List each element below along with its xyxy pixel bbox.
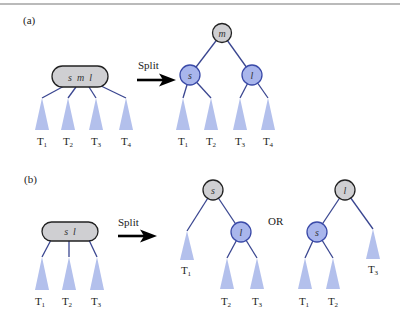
node-key: l — [251, 70, 254, 81]
subtree-triangle — [261, 98, 275, 130]
subtree-triangle — [35, 98, 49, 130]
subtree-label: T1 — [299, 295, 310, 309]
subtree-triangle — [298, 258, 312, 289]
subtree-triangle — [250, 258, 264, 289]
subtree-triangle — [233, 98, 247, 130]
split-label: Split — [138, 59, 159, 71]
subtree-triangle — [62, 257, 76, 290]
split-tree-a: m s l T1 T2 T3 T4 — [176, 24, 275, 150]
subtree-label: T3 — [91, 295, 102, 309]
three-node-before: s l T1 T2 T3 — [35, 222, 104, 309]
panel-a-label: (a) — [23, 14, 36, 27]
subtree-triangle — [119, 98, 133, 130]
subtree-triangle — [220, 258, 234, 289]
subtree-label: T2 — [62, 295, 73, 309]
subtree-label: T1 — [178, 135, 189, 149]
node-key: l — [240, 227, 243, 238]
three-node-keys: s l — [64, 226, 76, 237]
node-key: s — [188, 70, 192, 81]
subtree-triangle — [89, 98, 103, 130]
subtree-label: T2 — [221, 295, 232, 309]
subtree-triangle — [180, 231, 194, 260]
split-tree-option-1: s l T1 T2 T3 — [180, 180, 264, 309]
panel-b-label: (b) — [24, 173, 37, 186]
subtree-triangle — [366, 229, 380, 259]
subtree-triangle — [61, 98, 75, 130]
four-node-before: s m l T1 T2 T3 T4 — [35, 66, 133, 149]
subtree-label: T4 — [121, 135, 132, 149]
subtree-triangle — [35, 257, 49, 290]
node-key: s — [211, 185, 215, 196]
split-arrow-b: Split — [118, 216, 157, 243]
split-tree-option-2: l s T3 T1 T2 — [298, 180, 380, 309]
or-label: OR — [268, 215, 284, 227]
split-label: Split — [118, 216, 139, 228]
subtree-label: T1 — [181, 264, 192, 278]
node-key: l — [344, 185, 347, 196]
subtree-label: T3 — [235, 135, 246, 149]
split-arrow-a: Split — [137, 59, 176, 87]
node-key: m — [218, 28, 225, 39]
split-diagram: (a) s m l T1 T2 T3 T4 Split — [0, 0, 400, 325]
subtree-triangle — [204, 98, 218, 130]
subtree-label: T2 — [63, 135, 74, 149]
four-node-keys: s m l — [68, 72, 92, 83]
subtree-label: T1 — [35, 295, 46, 309]
panel-a: (a) s m l T1 T2 T3 T4 Split — [23, 14, 275, 149]
subtree-label: T3 — [91, 135, 102, 149]
panel-b: (b) s l T1 T2 T3 Split — [24, 173, 380, 309]
subtree-triangle — [326, 258, 340, 289]
subtree-label: T2 — [206, 135, 217, 149]
subtree-label: T2 — [328, 295, 339, 309]
subtree-label: T1 — [37, 135, 48, 149]
subtree-triangle — [176, 98, 190, 130]
subtree-label: T3 — [368, 263, 379, 277]
node-key: s — [315, 227, 319, 238]
subtree-label: T3 — [252, 295, 263, 309]
subtree-label: T4 — [263, 135, 274, 149]
subtree-triangle — [90, 257, 104, 290]
